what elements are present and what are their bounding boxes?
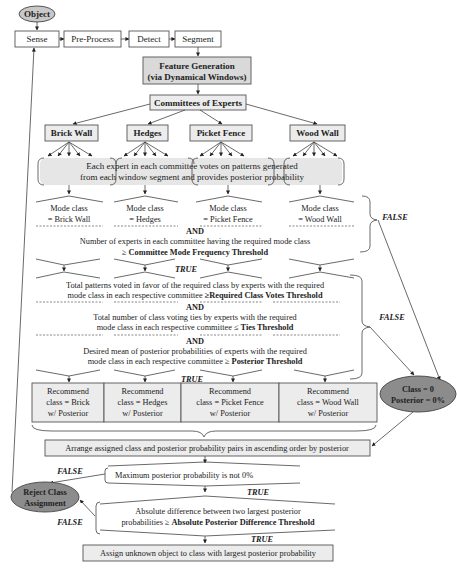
feature-generation-node: Feature Generation (via Dynamical Window… (143, 57, 251, 84)
committees-node: Committees of Experts (150, 95, 246, 110)
recommend-wood-line3: w/ Posterior (308, 409, 349, 418)
flowchart: Object Sense Pre-Process Detect Segment … (0, 0, 457, 574)
committee-picket-fence-label: Picket Fence (197, 128, 246, 138)
true-label-4: TRUE (251, 535, 274, 544)
recommend-picket-line2: class = Picket Fence (196, 398, 264, 407)
class-votes-line1: Total patterns voted in favor of the req… (66, 281, 325, 290)
mode-class-picket-line2: = Picket Fence (203, 215, 253, 224)
false-label-2: FALSE (378, 313, 405, 322)
mode-frequency-line1: Number of experts in each committee havi… (80, 237, 310, 246)
class-zero-line2: Posterior = 0% (391, 396, 445, 405)
committee-boxes: Brick Wall Hedges Picket Fence Wood Wall (45, 125, 345, 141)
false-brace-2 (350, 275, 370, 379)
false-label-4: FALSE (56, 518, 83, 527)
false-label-1: FALSE (381, 213, 408, 222)
assign-node: Assign unknown object to class with larg… (83, 545, 333, 561)
class-zero-node: Class = 0 Posterior = 0% (380, 376, 456, 412)
voting-line2: from each window segment and provides po… (80, 172, 305, 182)
mode-class-outputs: TRUE (36, 259, 354, 274)
and-label-1: AND (186, 227, 204, 236)
and-label-2: AND (186, 303, 204, 312)
mode-class-brick-line2: = Brick Wall (48, 215, 91, 224)
expert-fan-arrows (48, 142, 337, 156)
preprocess-label: Pre-Process (71, 34, 114, 44)
recommend-wood-line1: Recommend (307, 387, 350, 396)
recommend-brick-line3: w/ Posterior (48, 409, 89, 418)
ties-line2: mode class in each respective committee … (97, 323, 294, 332)
feature-generation-title: Feature Generation (159, 61, 235, 71)
true-label-1: TRUE (175, 265, 198, 274)
mode-class-wood-line2: = Wood Wall (298, 215, 342, 224)
abs-diff-decision: Absolute difference between two largest … (96, 496, 335, 536)
class-votes-line2: mode class in each respective committee … (67, 291, 322, 300)
voting-line1: Each expert in each committee votes on p… (86, 161, 298, 171)
segment-label: Segment (182, 34, 214, 44)
mode-class-wood-line1: Mode class (301, 204, 339, 213)
recommend-brick-line1: Recommend (47, 387, 90, 396)
recommend-hedges-line1: Recommend (122, 387, 165, 396)
recommend-wood-line2: class = Wood Wall (297, 398, 359, 407)
posterior-line2: mode class in each respective committee … (88, 357, 303, 366)
pipeline: Sense Pre-Process Detect Segment (15, 31, 221, 47)
recommend-brick-line2: class = Brick (46, 398, 90, 407)
assign-label: Assign unknown object to class with larg… (100, 549, 317, 558)
sense-label: Sense (27, 34, 48, 44)
arrange-node: Arrange assigned class and posterior pro… (45, 440, 370, 456)
voting-node: Each expert in each committee votes on p… (38, 158, 344, 185)
recommend-picket-line1: Recommend (209, 387, 252, 396)
posterior-line1: Desired mean of posterior probabilities … (83, 347, 308, 356)
max-posterior-decision: Maximum posterior probability is not 0% (105, 462, 300, 486)
false-brace-1 (360, 196, 377, 252)
recommend-hedges-line3: w/ Posterior (122, 409, 163, 418)
mode-frequency-line2: ≥ Committee Mode Frequency Threshold (122, 248, 268, 257)
mode-class-brick-line1: Mode class (50, 204, 88, 213)
committee-hedges-label: Hedges (134, 128, 162, 138)
detect-label: Detect (137, 34, 161, 44)
reject-line2: Assignment (24, 499, 66, 508)
class-zero-line1: Class = 0 (402, 385, 434, 394)
mode-class-hedges-line1: Mode class (126, 204, 164, 213)
recommend-brace (32, 425, 376, 437)
class-votes-group: Total patterns voted in favor of the req… (36, 272, 354, 384)
object-label: Object (24, 9, 50, 19)
mode-class-group: Mode class = Brick Wall Mode class = Hed… (36, 196, 354, 257)
mode-class-picket-line1: Mode class (209, 204, 247, 213)
feature-generation-subtitle: (via Dynamical Windows) (147, 72, 246, 82)
recommend-group: Recommend class = Brick w/ Posterior Rec… (32, 383, 377, 422)
reject-node: Reject Class Assignment (11, 482, 79, 512)
and-label-3: AND (186, 337, 204, 346)
abs-diff-line2: probabilities ≥ Absolute Posterior Diffe… (121, 518, 315, 527)
false-label-3: FALSE (56, 467, 83, 476)
reject-line1: Reject Class (23, 488, 67, 497)
feedback-arrow (12, 48, 34, 492)
committee-wood-wall-label: Wood Wall (296, 128, 339, 138)
max-posterior-label: Maximum posterior probability is not 0% (115, 471, 253, 480)
mode-class-hedges-line2: = Hedges (129, 215, 161, 224)
true-label-3: TRUE (247, 488, 270, 497)
recommend-hedges-line2: class = Hedges (118, 398, 168, 407)
ties-line1: Total number of class voting ties by exp… (93, 313, 297, 322)
committee-brick-wall-label: Brick Wall (51, 128, 93, 138)
committees-label: Committees of Experts (154, 98, 242, 108)
abs-diff-line1: Absolute difference between two largest … (135, 507, 301, 516)
arrange-label: Arrange assigned class and posterior pro… (65, 444, 349, 453)
object-node: Object (19, 6, 55, 22)
recommend-picket-line3: w/ Posterior (210, 409, 251, 418)
